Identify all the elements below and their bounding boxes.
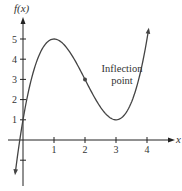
x-tick-label: 4 — [145, 144, 150, 155]
axes: 123412345 — [8, 17, 175, 186]
y-tick-label: 2 — [12, 94, 17, 105]
annotation-line1: Inflection — [102, 63, 144, 74]
x-tick-label: 3 — [114, 144, 119, 155]
inflection-point-chart: 123412345 f(x) x Inflection point — [0, 0, 182, 191]
y-tick-label: 5 — [12, 34, 17, 45]
annotation-line2: point — [111, 75, 133, 86]
labels: f(x) x Inflection point — [14, 2, 181, 145]
y-axis-label: f(x) — [14, 2, 30, 15]
x-tick-label: 1 — [52, 144, 57, 155]
y-tick-label: 1 — [12, 114, 17, 125]
x-axis-arrow-icon — [168, 138, 175, 143]
y-tick-label: 4 — [12, 54, 17, 65]
curve-end-arrow-icon — [146, 28, 151, 34]
curve-start-arrow-icon — [13, 169, 18, 175]
y-tick-label: 3 — [12, 74, 17, 85]
x-tick-label: 2 — [83, 144, 88, 155]
y-axis-arrow-icon — [21, 17, 26, 24]
inflection-point-marker — [83, 77, 87, 81]
x-axis-label: x — [175, 133, 181, 145]
